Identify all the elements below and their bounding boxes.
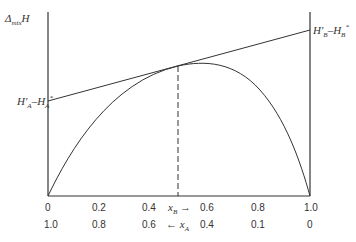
xb-tick-0.6: 0.6 [200, 203, 214, 213]
left-intercept-label: H′A–HA* [17, 96, 53, 106]
y-axis-label: ΔmixH [5, 13, 30, 23]
xa-label: ← xA [166, 219, 189, 229]
xb-tick-0: 0 [45, 203, 51, 213]
xa-tick-1.0: 1.0 [44, 220, 58, 230]
right-intercept-label: H′B–HB* [313, 25, 349, 35]
xa-tick-0.8: 0.8 [92, 220, 106, 230]
xa-tick-0.4: 0.4 [200, 220, 214, 230]
xa-tick-0: 0 [307, 220, 313, 230]
xb-tick-0.4: 0.4 [142, 203, 156, 213]
mixing-enthalpy-curve [48, 63, 310, 196]
xb-label: xB → [168, 202, 191, 212]
xa-tick-0.1: 0.1 [251, 220, 265, 230]
xb-tick-0.8: 0.8 [251, 203, 265, 213]
xb-tick-1.0: 1.0 [304, 203, 318, 213]
xb-tick-0.2: 0.2 [92, 203, 106, 213]
xa-tick-0.6: 0.6 [142, 220, 156, 230]
